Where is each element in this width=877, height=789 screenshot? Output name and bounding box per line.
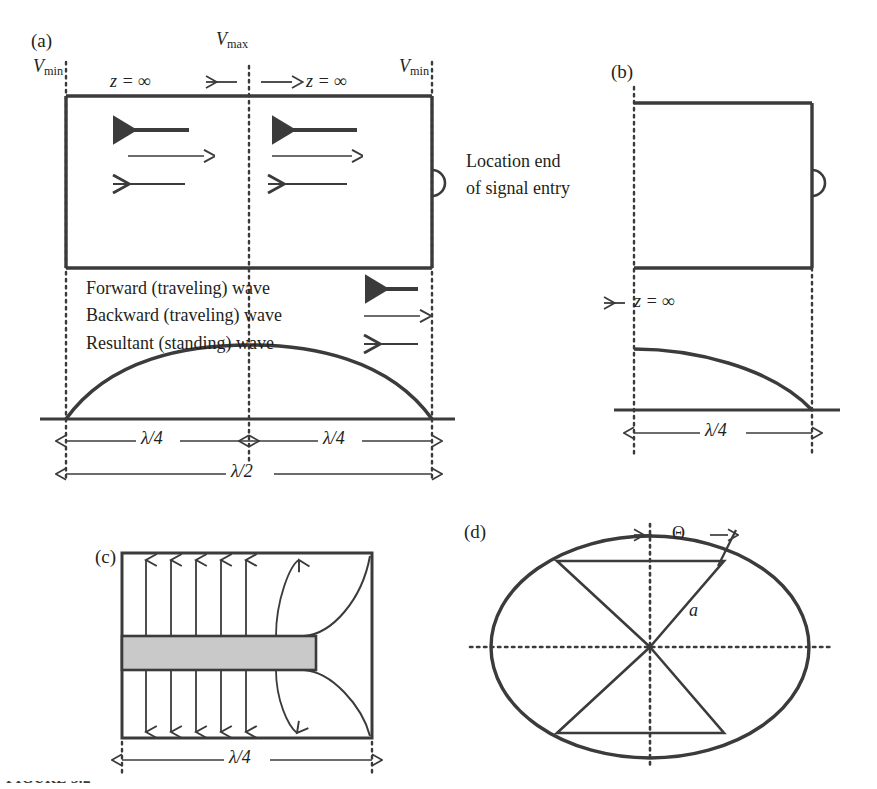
figure-caption-clipped: FIGURE 3.2 [0, 781, 300, 789]
panel-tag-a: (a) [31, 31, 52, 50]
panel-tag-c: (c) [95, 547, 116, 566]
label-z-infinity-right: z = ∞ [306, 72, 347, 90]
v-symbol: V [33, 56, 44, 76]
panel-tag-b: (b) [611, 62, 633, 81]
panel-tag-d: (d) [464, 522, 486, 541]
panel-c [122, 553, 372, 776]
label-z-infinity-left: z = ∞ [110, 72, 151, 90]
dim-label-quarter-right-a: λ/4 [323, 429, 345, 447]
label-v-min-left: Vmin [33, 57, 63, 78]
label-v-max-center: Vmax [216, 30, 248, 51]
legend-label-forward: Forward (traveling) wave [86, 279, 270, 297]
dim-label-quarter-c: λ/4 [229, 748, 251, 766]
panel-b [604, 87, 840, 455]
panel-d [470, 524, 830, 768]
legend-label-resultant: Resultant (standing) wave [86, 334, 274, 352]
fringe-line-up [304, 556, 370, 636]
center-conductor-c [122, 636, 316, 670]
waveguide-box-b [634, 103, 812, 268]
panel-a [40, 62, 455, 485]
figure-canvas [0, 0, 877, 789]
fringe-arrow-up [276, 560, 299, 636]
dim-label-half-a: λ/2 [231, 462, 253, 480]
signal-entry-bump-b [812, 170, 825, 196]
standing-wave-arc-b [634, 349, 812, 410]
fringe-arrow-down [276, 670, 297, 733]
location-note-line-2: of signal entry [466, 179, 570, 197]
label-z-infinity-b: z = ∞ [634, 292, 675, 310]
v-subscript: max [227, 37, 248, 51]
v-symbol: V [399, 56, 410, 76]
v-subscript: min [44, 64, 63, 78]
label-radius-a-d: a [689, 601, 698, 619]
label-v-min-right: Vmin [399, 57, 429, 78]
label-theta-d: Θ [672, 524, 685, 542]
v-subscript: min [410, 64, 429, 78]
wedge-bottom-d [557, 647, 724, 733]
v-symbol: V [216, 29, 227, 49]
dim-label-quarter-left-a: λ/4 [141, 429, 163, 447]
legend-label-backward: Backward (traveling) wave [86, 306, 282, 324]
dim-label-quarter-b: λ/4 [705, 421, 727, 439]
signal-entry-bump-a [432, 170, 445, 196]
location-note-line-1: Location end [466, 152, 560, 170]
figure-caption-text: FIGURE 3.2 [6, 781, 91, 787]
fringe-line-down [304, 670, 370, 736]
wedge-top-d [557, 561, 724, 647]
